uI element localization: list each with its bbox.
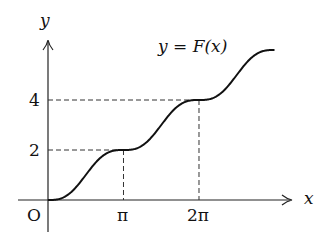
origin-label: O: [27, 207, 41, 224]
tick-label-pi: π: [117, 207, 128, 224]
function-graph: y x O π 2π 2 4 y = F(x): [0, 0, 325, 250]
function-label: y = F(x): [158, 38, 227, 55]
y-axis-label: y: [40, 12, 50, 29]
function-curve: [48, 50, 275, 200]
tick-label-4: 4: [29, 92, 40, 109]
x-axis-label: x: [304, 190, 314, 207]
tick-label-2pi: 2π: [187, 207, 209, 224]
tick-label-2: 2: [29, 142, 40, 159]
